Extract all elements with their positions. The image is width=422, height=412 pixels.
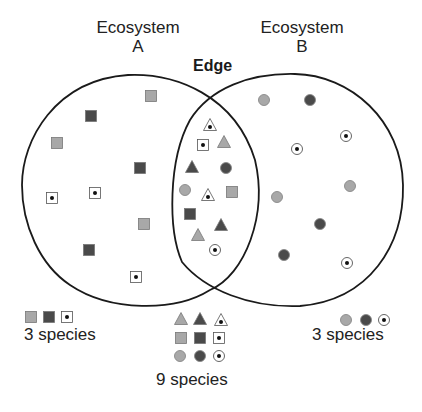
dot-circle-icon xyxy=(379,315,390,326)
dot-square-icon xyxy=(90,188,101,199)
ecosystem-a-title: Ecosystem xyxy=(88,18,188,37)
light-square-icon xyxy=(52,138,63,149)
dot-triangle-icon xyxy=(204,119,217,131)
light-circle-icon xyxy=(175,351,186,362)
dark-circle-icon xyxy=(279,250,290,261)
dot-circle-icon xyxy=(214,351,225,362)
dot-triangle-icon xyxy=(215,314,228,326)
dot-circle-icon xyxy=(292,144,303,155)
dark-circle-icon xyxy=(221,163,232,174)
light-circle-icon xyxy=(259,95,270,106)
dot-square-icon xyxy=(131,272,142,283)
dark-square-icon xyxy=(84,245,95,256)
ecosystem-b-letter: B xyxy=(252,37,352,56)
dark-circle-icon xyxy=(315,219,326,230)
dot-square-icon xyxy=(198,140,209,151)
dot-square-icon xyxy=(62,312,73,323)
light-circle-icon xyxy=(345,181,356,192)
ecosystem-a-label: Ecosystem A xyxy=(88,18,188,56)
ecosystem-b-title: Ecosystem xyxy=(252,18,352,37)
dark-triangle-icon xyxy=(194,313,207,325)
dark-square-icon xyxy=(135,163,146,174)
dark-square-icon xyxy=(44,312,55,323)
dot-square-icon xyxy=(47,193,58,204)
light-square-icon xyxy=(26,312,37,323)
species-count-a: 3 species xyxy=(24,325,96,345)
light-square-icon xyxy=(227,187,238,198)
dark-square-icon xyxy=(86,111,97,122)
dot-triangle-icon xyxy=(202,189,215,201)
dark-circle-icon xyxy=(195,351,206,362)
species-symbols xyxy=(26,91,390,362)
dark-circle-icon xyxy=(361,315,372,326)
ecosystem-a-letter: A xyxy=(88,37,188,56)
light-circle-icon xyxy=(341,315,352,326)
dot-circle-icon xyxy=(210,245,221,256)
light-square-icon xyxy=(176,333,187,344)
light-circle-icon xyxy=(180,185,191,196)
dot-circle-icon xyxy=(342,258,353,269)
dark-triangle-icon xyxy=(215,219,228,231)
edge-label: Edge xyxy=(193,57,232,75)
species-count-edge: 9 species xyxy=(156,370,228,390)
light-circle-icon xyxy=(272,192,283,203)
dark-triangle-icon xyxy=(186,161,199,173)
light-square-icon xyxy=(139,219,150,230)
light-triangle-icon xyxy=(218,136,231,148)
ecosystem-b-label: Ecosystem B xyxy=(252,18,352,56)
dark-circle-icon xyxy=(305,95,316,106)
dot-circle-icon xyxy=(341,131,352,142)
species-count-b: 3 species xyxy=(312,325,384,345)
light-square-icon xyxy=(146,91,157,102)
light-triangle-icon xyxy=(192,229,205,241)
dot-square-icon xyxy=(214,333,225,344)
dark-square-icon xyxy=(195,333,206,344)
dark-square-icon xyxy=(185,209,196,220)
light-triangle-icon xyxy=(175,313,188,325)
